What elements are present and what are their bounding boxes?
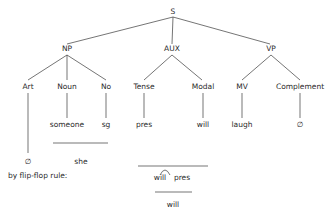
- flip-flop-pres: pres: [174, 174, 190, 182]
- tree-node-modal: Modal: [192, 83, 215, 91]
- tree-node-no: No: [101, 83, 111, 91]
- flip-flop-label: by flip-flop rule:: [8, 172, 67, 180]
- flip-flop-will: will: [154, 174, 166, 182]
- terminal-null: ∅: [297, 121, 304, 129]
- terminal-laugh: laugh: [232, 121, 253, 129]
- art-null-result: ∅: [25, 158, 32, 166]
- tree-node-noun: Noun: [57, 83, 77, 91]
- terminal-sg: sg: [102, 121, 111, 129]
- tree-node-art: Art: [22, 83, 33, 91]
- tree-node-s: S: [171, 8, 176, 16]
- tree-node-complement: Complement: [276, 83, 324, 91]
- tree-node-tense: Tense: [133, 83, 154, 91]
- pronoun-she: she: [74, 158, 87, 166]
- tree-node-np: NP: [62, 45, 72, 53]
- terminal-someone: someone: [50, 121, 84, 129]
- flip-flop-result-will: will: [167, 201, 179, 209]
- tree-node-vp: VP: [266, 45, 276, 53]
- tree-edges: [0, 0, 335, 219]
- terminal-will: will: [197, 121, 209, 129]
- tree-node-aux: AUX: [164, 45, 180, 53]
- terminal-pres: pres: [136, 121, 152, 129]
- tree-node-mv: MV: [236, 83, 248, 91]
